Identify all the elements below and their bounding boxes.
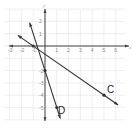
y-tick-label: -2	[39, 68, 44, 74]
coordinate-plane: -3-2-112345621-2-3-4-5 C D y x	[0, 0, 133, 128]
data-point	[102, 94, 105, 97]
x-tick-label: -3	[8, 47, 13, 53]
x-axis-label: x	[128, 45, 132, 50]
data-point	[32, 44, 35, 47]
x-tick-label: 6	[114, 47, 117, 53]
line-d-label: D	[58, 105, 65, 116]
y-tick-label: 1	[39, 31, 42, 37]
y-axis-label: y	[42, 3, 46, 8]
line-arrow-icon	[29, 23, 32, 27]
line-c-label: C	[107, 84, 114, 95]
x-tick-label: 3	[79, 47, 82, 53]
y-axis-arrow-up-icon	[44, 9, 47, 13]
y-tick-label: 2	[39, 18, 42, 24]
x-tick-label: 2	[67, 47, 70, 53]
axes	[9, 9, 129, 121]
x-tick-label: 4	[91, 47, 94, 53]
y-axis-arrow-down-icon	[44, 117, 47, 121]
grid-lines	[4, 9, 126, 120]
tick-labels: -3-2-112345621-2-3-4-5	[8, 18, 117, 110]
x-tick-label: 5	[103, 47, 106, 53]
x-tick-label: -2	[20, 47, 25, 53]
x-tick-label: 1	[55, 47, 58, 53]
y-tick-label: -5	[39, 105, 44, 111]
y-tick-label: -3	[39, 80, 44, 86]
data-point	[43, 69, 46, 72]
y-tick-label: -4	[39, 92, 44, 98]
